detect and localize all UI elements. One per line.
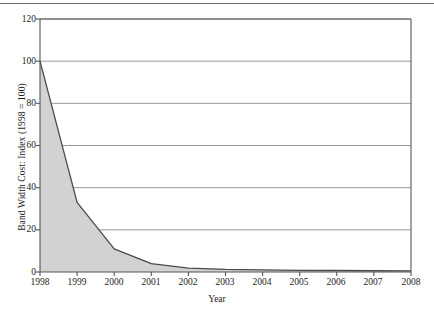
gridlines [40, 19, 411, 230]
x-axis-title: Year [0, 294, 434, 304]
y-tick-label-100: 100 [8, 56, 36, 66]
y-tick-label-80: 80 [8, 98, 36, 108]
y-tick-label-120: 120 [8, 14, 36, 24]
x-tick-label-2006: 2006 [315, 277, 357, 287]
x-tick-label-2002: 2002 [167, 277, 209, 287]
x-tick-label-1999: 1999 [56, 277, 98, 287]
page-top-rule [0, 3, 434, 4]
x-tick-label-2008: 2008 [390, 277, 432, 287]
chart-figure: Band Width Cost: Index (1998 = 100) Year… [0, 0, 434, 310]
y-tick-label-0: 0 [8, 267, 36, 277]
x-tick-label-1998: 1998 [19, 277, 61, 287]
y-tick-label-40: 40 [8, 182, 36, 192]
plot-area [0, 0, 434, 310]
x-tick-label-2004: 2004 [241, 277, 283, 287]
y-tick-label-60: 60 [8, 140, 36, 150]
area-series [40, 61, 411, 272]
x-tick-label-2003: 2003 [204, 277, 246, 287]
x-tick-label-2005: 2005 [278, 277, 320, 287]
y-tick-label-20: 20 [8, 224, 36, 234]
x-tick-label-2001: 2001 [130, 277, 172, 287]
x-tick-label-2000: 2000 [93, 277, 135, 287]
x-tick-label-2007: 2007 [352, 277, 394, 287]
